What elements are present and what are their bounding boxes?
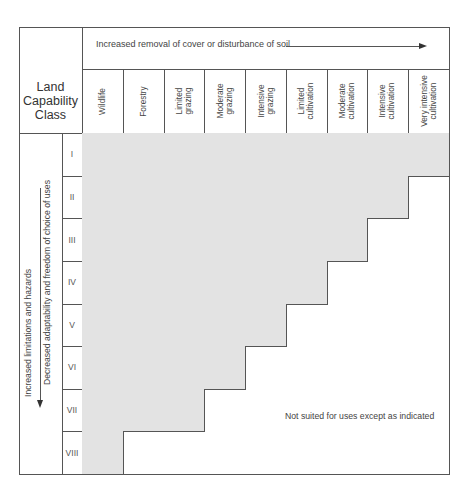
suited-cell [245,133,287,177]
class-number: V [62,304,82,347]
column-header: Intensive cultivation [367,69,408,133]
class-number: VIII [62,431,82,474]
column-header: Forestry [123,69,164,133]
class-number: IV [62,261,82,304]
column-header: Limited grazing [164,69,205,133]
column-divider [367,69,368,133]
column-divider [204,69,205,133]
column-header: Moderate grazing [204,69,245,133]
column-header: Moderate cultivation [327,69,368,133]
suited-cell [82,218,124,262]
suited-cell [164,133,206,177]
suited-cell [204,304,246,348]
suited-cell [82,133,124,177]
column-header: Very intensive cultivation [408,69,449,133]
class-number: III [62,218,82,261]
suited-cell [82,431,124,475]
suited-cell [123,176,165,220]
column-divider [245,69,246,133]
suited-cell [123,389,165,433]
suited-cell [123,133,165,177]
suited-cell [123,304,165,348]
down-arrow-line [40,188,41,401]
suited-cell [164,176,206,220]
title-line-3: Class [23,108,78,122]
suited-cell [123,346,165,390]
suited-cell [82,389,124,433]
suited-cell [164,218,206,262]
suited-cell [245,304,287,348]
suited-cell [164,389,206,433]
column-header-label: Limited cultivation [297,83,315,120]
title-line-1: Land [23,80,78,94]
column-divider [123,69,124,133]
land-capability-class-title: Land Capability Class [19,69,82,133]
suited-cell [123,218,165,262]
suited-cell [367,133,409,177]
suited-cell [82,176,124,220]
column-header-label: Intensive cultivation [379,83,397,120]
column-divider [164,69,165,133]
title-line-2: Capability [23,94,78,108]
column-header-label: Limited grazing [175,87,193,114]
side-caption-outer: Increased limitations and hazards [23,269,33,397]
right-arrow-line [286,46,420,47]
suited-cell [82,261,124,305]
down-arrow-icon [37,400,43,408]
suited-cell [286,218,328,262]
suited-cell [327,218,369,262]
suited-cell [327,133,369,177]
class-number: II [62,176,82,219]
suited-cell [164,261,206,305]
column-divider [327,69,328,133]
suited-cell [82,346,124,390]
suited-cell [327,176,369,220]
suited-cell [408,133,450,177]
column-header-label: Forestry [139,86,148,116]
column-divider [286,69,287,133]
column-divider [408,69,409,133]
suited-cell [204,346,246,390]
suited-cell [245,218,287,262]
suited-cell [286,133,328,177]
suited-cell [245,176,287,220]
suited-cell [164,346,206,390]
suited-cell [82,304,124,348]
suited-cell [204,133,246,177]
not-suited-note: Not suited for uses except as indicated [285,411,434,421]
suited-cell [367,176,409,220]
side-caption-inner: Decreased adaptability and freedom of ch… [42,180,52,385]
column-header: Wildlife [82,69,123,133]
column-header-label: Moderate cultivation [338,83,356,120]
column-header-label: Very intensive cultivation [420,75,438,127]
suited-cell [204,218,246,262]
column-header-label: Wildlife [98,88,107,115]
column-header-label: Intensive grazing [256,84,274,117]
suited-cell [286,261,328,305]
class-number: VI [62,346,82,389]
column-header: Intensive grazing [245,69,286,133]
column-header: Limited cultivation [286,69,327,133]
class-number: I [62,133,82,176]
suited-cell [204,261,246,305]
class-number: VII [62,389,82,432]
suited-cell [245,261,287,305]
suited-cell [204,176,246,220]
column-header-label: Moderate grazing [216,83,234,118]
suited-cell [286,176,328,220]
suited-cell [123,261,165,305]
right-arrow-icon [419,43,427,49]
suited-cell [164,304,206,348]
top-caption: Increased removal of cover or disturbanc… [96,39,290,49]
